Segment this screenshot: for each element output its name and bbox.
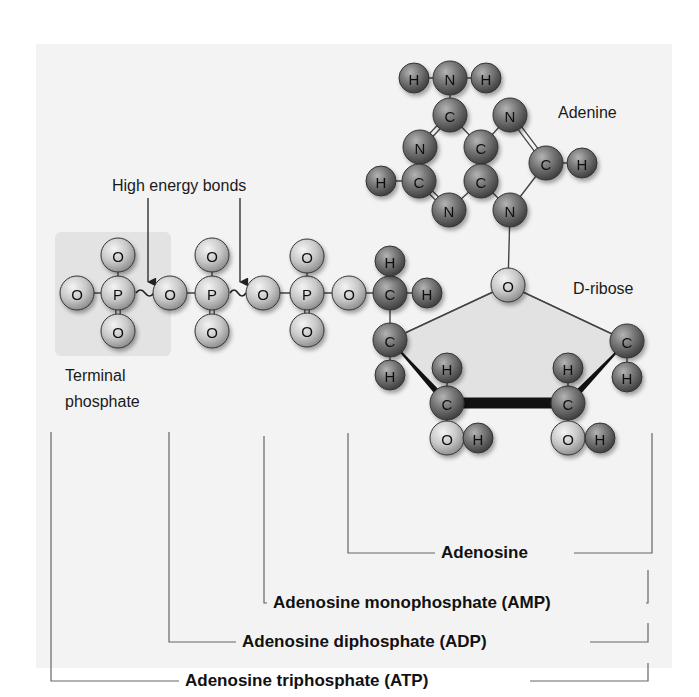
- atom-c: C: [402, 164, 436, 198]
- atom-h: H: [585, 423, 615, 453]
- atom-symbol: C: [622, 334, 633, 351]
- atp-structure-diagram: OPOOOPOOOPOOOCHHCHOCHCHOHCHOHHNHCNNCCHHC…: [0, 0, 699, 697]
- atom-o: O: [551, 421, 585, 455]
- atom-h: H: [375, 246, 405, 276]
- atom-symbol: O: [301, 323, 313, 340]
- atom-symbol: N: [415, 140, 426, 157]
- atom-h: H: [471, 63, 501, 93]
- atom-h: H: [463, 423, 493, 453]
- atom-o: O: [101, 238, 135, 272]
- atom-h: H: [366, 166, 396, 196]
- atom-o: O: [101, 314, 135, 348]
- atom-c: C: [430, 386, 464, 420]
- atom-symbol: O: [441, 431, 453, 448]
- atom-symbol: C: [476, 174, 487, 191]
- atom-h: H: [375, 360, 405, 390]
- atom-c: C: [433, 98, 467, 132]
- atom-symbol: C: [563, 396, 574, 413]
- terminal-phosphate-label-line1: Terminal: [65, 367, 125, 384]
- atom-symbol: N: [444, 203, 455, 220]
- atom-symbol: O: [343, 286, 355, 303]
- atom-p: P: [101, 276, 135, 310]
- bracket-label: Adenosine monophosphate (AMP): [273, 593, 551, 612]
- atom-symbol: H: [442, 361, 453, 378]
- atom-h: H: [553, 353, 583, 383]
- atom-symbol: H: [577, 156, 588, 173]
- bracket-label: Adenosine diphosphate (ADP): [242, 632, 487, 651]
- atom-symbol: O: [71, 286, 83, 303]
- atom-symbol: C: [445, 108, 456, 125]
- atom-symbol: H: [409, 71, 420, 88]
- atom-c: C: [464, 164, 498, 198]
- atom-symbol: C: [476, 140, 487, 157]
- atom-h: H: [412, 278, 442, 308]
- atom-o: O: [153, 276, 187, 310]
- atom-c: C: [373, 323, 407, 357]
- atom-symbol: C: [414, 174, 425, 191]
- atom-symbol: O: [164, 286, 176, 303]
- atom-c: C: [464, 130, 498, 164]
- atom-symbol: O: [301, 249, 313, 266]
- atom-symbol: H: [376, 174, 387, 191]
- atom-n: N: [493, 98, 527, 132]
- atom-symbol: H: [385, 254, 396, 271]
- atom-o: O: [430, 421, 464, 455]
- atom-symbol: O: [502, 278, 514, 295]
- atom-symbol: O: [206, 248, 218, 265]
- atom-symbol: N: [505, 108, 516, 125]
- atom-h: H: [399, 63, 429, 93]
- atom-symbol: C: [385, 286, 396, 303]
- high-energy-bonds-label: High energy bonds: [112, 177, 246, 194]
- atom-symbol: O: [112, 324, 124, 341]
- atom-symbol: O: [257, 286, 269, 303]
- atom-o: O: [290, 239, 324, 273]
- atom-symbol: N: [505, 203, 516, 220]
- atom-c: C: [551, 386, 585, 420]
- atom-o: O: [195, 314, 229, 348]
- atom-c: C: [373, 276, 407, 310]
- atom-o: O: [491, 268, 525, 302]
- atom-c: C: [610, 324, 644, 358]
- atom-symbol: C: [442, 396, 453, 413]
- atom-symbol: H: [422, 286, 433, 303]
- d-ribose-label: D-ribose: [573, 280, 634, 297]
- atom-c: C: [529, 146, 563, 180]
- atom-symbol: H: [622, 370, 633, 387]
- atom-symbol: P: [113, 286, 123, 303]
- adenine-label: Adenine: [558, 104, 617, 121]
- atom-n: N: [432, 193, 466, 227]
- atom-symbol: H: [595, 431, 606, 448]
- atom-symbol: N: [445, 71, 456, 88]
- atom-n: N: [433, 61, 467, 95]
- atom-o: O: [290, 313, 324, 347]
- atom-n: N: [403, 130, 437, 164]
- atom-symbol: C: [541, 156, 552, 173]
- atom-symbol: H: [481, 71, 492, 88]
- atom-symbol: C: [385, 333, 396, 350]
- terminal-phosphate-label-line2: phosphate: [65, 393, 140, 410]
- atom-n: N: [493, 193, 527, 227]
- atom-symbol: H: [385, 368, 396, 385]
- bracket-label: Adenosine: [441, 543, 528, 562]
- bracket-label: Adenosine triphosphate (ATP): [185, 671, 428, 690]
- atom-symbol: H: [563, 361, 574, 378]
- atom-symbol: O: [206, 324, 218, 341]
- atom-p: P: [195, 276, 229, 310]
- atom-h: H: [567, 148, 597, 178]
- atom-symbol: O: [562, 431, 574, 448]
- atom-o: O: [60, 276, 94, 310]
- atom-h: H: [612, 362, 642, 392]
- atom-h: H: [432, 353, 462, 383]
- atom-o: O: [246, 276, 280, 310]
- atom-symbol: H: [473, 431, 484, 448]
- atom-symbol: O: [112, 248, 124, 265]
- diagram-canvas: OPOOOPOOOPOOOCHHCHOCHCHOHCHOHHNHCNNCCHHC…: [0, 0, 699, 697]
- atom-symbol: P: [207, 286, 217, 303]
- atom-o: O: [195, 238, 229, 272]
- atom-p: P: [290, 276, 324, 310]
- atom-symbol: P: [302, 286, 312, 303]
- atom-o: O: [332, 276, 366, 310]
